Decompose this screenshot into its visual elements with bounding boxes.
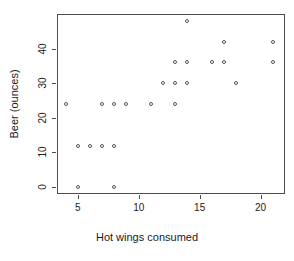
y-axis-tick-label: 0 bbox=[38, 176, 48, 198]
x-axis-tick-label: 20 bbox=[246, 202, 276, 213]
y-axis-label: Beer (ounces) bbox=[8, 69, 20, 138]
x-axis-label: Hot wings consumed bbox=[0, 231, 294, 243]
x-axis-tick bbox=[200, 195, 201, 199]
x-axis-tick-label: 10 bbox=[124, 202, 154, 213]
x-axis-tick bbox=[139, 195, 140, 199]
plot-panel-box bbox=[57, 14, 285, 194]
x-axis-tick-label: 15 bbox=[185, 202, 215, 213]
y-axis-tick bbox=[52, 118, 56, 119]
y-axis-tick bbox=[52, 49, 56, 50]
scatter-plot-figure: 5101520 010203040 Hot wings consumed Bee… bbox=[0, 0, 294, 261]
y-axis-tick-label: 20 bbox=[38, 107, 48, 129]
y-axis-tick-label: 10 bbox=[38, 141, 48, 163]
y-axis-label-wrapper: Beer (ounces) bbox=[6, 0, 22, 208]
y-axis-tick-label: 30 bbox=[38, 72, 48, 94]
x-axis-tick bbox=[78, 195, 79, 199]
x-axis-tick-label: 5 bbox=[63, 202, 93, 213]
y-axis-tick bbox=[52, 187, 56, 188]
y-axis-tick bbox=[52, 83, 56, 84]
x-axis-tick bbox=[261, 195, 262, 199]
y-axis-tick bbox=[52, 152, 56, 153]
y-axis-tick-label: 40 bbox=[38, 38, 48, 60]
